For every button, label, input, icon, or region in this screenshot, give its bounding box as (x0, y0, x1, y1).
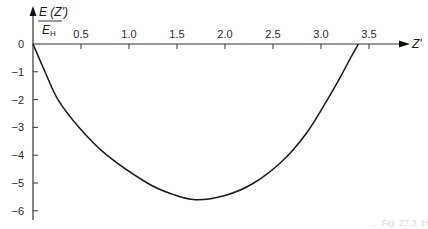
x-tick-label: 0.5 (73, 28, 88, 40)
caption-fragment: ... Fig. 27.3. H (0, 218, 428, 229)
x-tick-label: 2.0 (217, 28, 232, 40)
x-axis-arrow-icon (399, 41, 410, 48)
x-tick-label: 1.5 (169, 28, 184, 40)
x-tick-label: 3.5 (361, 28, 376, 40)
y-tick-label: −5 (11, 177, 24, 189)
chart: 0.51.01.52.02.53.03.5 0−1−2−3−4−5−6 E (Z… (0, 0, 428, 229)
y-tick-label: −1 (11, 66, 24, 78)
x-axis-label: Z' (411, 37, 422, 51)
y-tick-label: −4 (11, 149, 24, 161)
y-axis-arrow-icon (30, 6, 37, 16)
energy-curve (33, 44, 358, 200)
y-tick-label: −3 (11, 121, 24, 133)
x-tick-label: 3.0 (313, 28, 328, 40)
y-tick-label: −6 (11, 205, 24, 217)
y-axis-label-numerator: E (Z') (39, 5, 68, 19)
y-axis-label-denominator: EH (42, 23, 56, 38)
x-tick-label: 2.5 (265, 28, 280, 40)
x-tick-label: 1.0 (121, 28, 136, 40)
y-tick-label: −2 (11, 94, 24, 106)
y-tick-label: 0 (18, 38, 24, 50)
